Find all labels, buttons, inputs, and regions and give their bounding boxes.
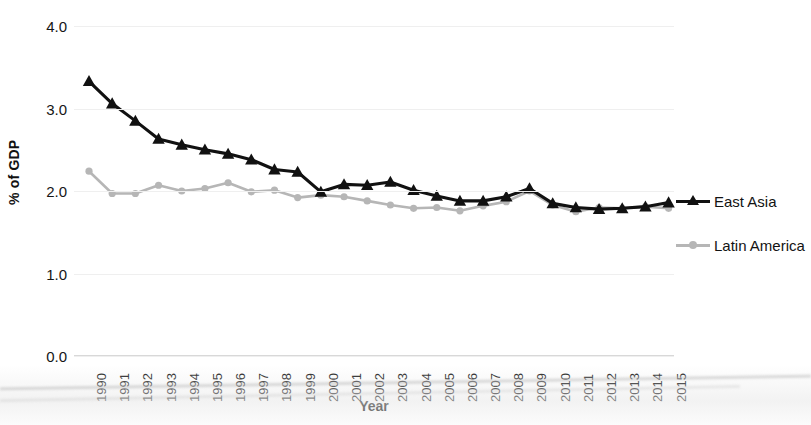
x-axis-tick-label: 1994 [187, 373, 202, 402]
x-axis-tick-label: 1995 [210, 373, 225, 402]
data-point-marker [456, 207, 463, 214]
y-axis-tick-label: 0.0 [21, 348, 67, 365]
y-axis-tick-label: 1.0 [21, 265, 67, 282]
x-axis-tick-label: 1991 [117, 373, 132, 402]
circle-marker-icon [689, 241, 697, 249]
gridline-3-0 [74, 109, 674, 110]
data-point-marker [410, 205, 417, 212]
data-point-marker [225, 179, 232, 186]
x-axis-tick-label: 2013 [627, 373, 642, 402]
x-axis-tick-label: 2015 [674, 373, 689, 402]
gridline-2-0 [74, 191, 674, 192]
data-point-marker [364, 197, 371, 204]
y-axis-tick-label: 3.0 [21, 100, 67, 117]
legend-swatch-icon [676, 194, 710, 208]
data-point-marker [387, 201, 394, 208]
data-point-marker [340, 193, 347, 200]
legend-item-latin-america[interactable]: Latin America [676, 234, 811, 256]
legend-label: Latin America [714, 237, 805, 254]
x-axis-line [74, 355, 674, 356]
data-point-marker [433, 204, 440, 211]
series-east-asia [83, 75, 675, 214]
x-axis-tick-label: 2007 [488, 373, 503, 402]
x-axis-title: Year [274, 398, 474, 414]
y-axis-title: % of GDP [6, 140, 22, 205]
x-axis-tick-label: 2011 [581, 374, 596, 402]
y-axis-tick-label: 4.0 [21, 18, 67, 35]
x-axis-tick-label: 1997 [256, 373, 271, 402]
data-point-marker [294, 194, 301, 201]
data-point-marker [155, 182, 162, 189]
data-point-marker [85, 168, 92, 175]
triangle-marker-icon [687, 195, 699, 205]
x-axis-tick-label: 1993 [164, 373, 179, 402]
y-axis-tick-label: 2.0 [21, 183, 67, 200]
plot-area [74, 26, 674, 356]
x-axis-tick-label: 1996 [233, 373, 248, 402]
gridline-4-0 [74, 26, 674, 27]
data-point-marker [83, 75, 95, 86]
x-axis-tick-label: 2010 [558, 373, 573, 402]
x-axis-tick-label: 1990 [94, 373, 109, 402]
legend-label: East Asia [714, 193, 777, 210]
x-axis-tick-label: 2009 [534, 373, 549, 402]
legend-item-east-asia[interactable]: East Asia [676, 190, 811, 212]
gridline-0-0 [74, 356, 674, 357]
chart-figure: 4.03.02.01.00.0 % of GDP 199019911992199… [0, 0, 811, 425]
x-axis-tick-label: 2012 [604, 373, 619, 402]
x-axis-tick-label: 2008 [511, 373, 526, 402]
chart-legend: East AsiaLatin America [676, 190, 811, 278]
legend-swatch-icon [676, 238, 710, 252]
x-axis-tick-label: 1992 [140, 373, 155, 402]
gridline-1-0 [74, 274, 674, 275]
x-axis-tick-label: 2014 [650, 373, 665, 402]
